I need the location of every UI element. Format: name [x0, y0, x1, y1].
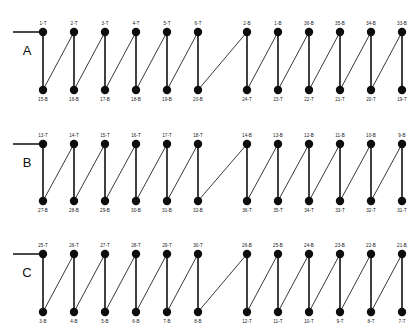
diagonal-edge: [340, 254, 371, 312]
node-bottom[interactable]: [39, 86, 47, 94]
node-top[interactable]: [367, 250, 375, 258]
node-bottom[interactable]: [398, 197, 406, 205]
node-bottom-label: 31-B: [162, 208, 172, 213]
node-bottom[interactable]: [367, 86, 375, 94]
node-bottom[interactable]: [132, 86, 140, 94]
node-bottom[interactable]: [336, 86, 344, 94]
node-top[interactable]: [305, 250, 313, 258]
node-bottom[interactable]: [39, 308, 47, 316]
node-bottom[interactable]: [163, 197, 171, 205]
diagonal-edge: [105, 254, 136, 312]
node-top-label: 25-T: [38, 243, 48, 248]
node-top-label: 34-B: [366, 21, 376, 26]
node-top-label: 36-B: [304, 21, 314, 26]
node-bottom[interactable]: [336, 197, 344, 205]
node-top[interactable]: [39, 250, 47, 258]
node-top[interactable]: [398, 28, 406, 36]
node-top[interactable]: [132, 250, 140, 258]
node-bottom[interactable]: [194, 308, 202, 316]
node-bottom-label: 3-B: [39, 319, 46, 324]
node-top-label: 2-T: [70, 21, 77, 26]
diagonal-edge: [136, 144, 167, 201]
node-bottom[interactable]: [101, 197, 109, 205]
node-top[interactable]: [243, 28, 251, 36]
node-bottom[interactable]: [243, 197, 251, 205]
diagonal-edge: [278, 144, 309, 201]
node-bottom[interactable]: [398, 86, 406, 94]
node-top[interactable]: [70, 140, 78, 148]
node-top[interactable]: [101, 28, 109, 36]
node-top[interactable]: [336, 28, 344, 36]
node-top-label: 3-T: [101, 21, 108, 26]
node-bottom[interactable]: [163, 308, 171, 316]
node-top[interactable]: [163, 250, 171, 258]
node-top-label: 14-B: [242, 133, 252, 138]
node-top[interactable]: [274, 28, 282, 36]
node-top[interactable]: [336, 140, 344, 148]
node-top[interactable]: [39, 140, 47, 148]
node-bottom[interactable]: [243, 308, 251, 316]
node-bottom[interactable]: [305, 86, 313, 94]
node-top[interactable]: [132, 140, 140, 148]
node-bottom[interactable]: [194, 197, 202, 205]
node-top[interactable]: [163, 28, 171, 36]
diagonal-edge: [43, 254, 74, 312]
node-bottom-label: 34-T: [304, 208, 314, 213]
node-top[interactable]: [70, 250, 78, 258]
diagonal-edge: [74, 254, 105, 312]
node-bottom[interactable]: [305, 197, 313, 205]
node-top[interactable]: [305, 140, 313, 148]
node-bottom[interactable]: [132, 197, 140, 205]
node-top[interactable]: [274, 250, 282, 258]
node-bottom[interactable]: [132, 308, 140, 316]
node-bottom[interactable]: [39, 197, 47, 205]
diagonal-edge: [340, 144, 371, 201]
node-bottom-label: 8-B: [194, 319, 201, 324]
node-top[interactable]: [398, 250, 406, 258]
node-top[interactable]: [39, 28, 47, 36]
node-top[interactable]: [274, 140, 282, 148]
diagonal-edge: [43, 144, 74, 201]
node-top-label: 18-T: [193, 133, 203, 138]
node-top[interactable]: [163, 140, 171, 148]
node-top[interactable]: [367, 140, 375, 148]
node-top[interactable]: [367, 28, 375, 36]
node-bottom[interactable]: [70, 86, 78, 94]
node-top-label: 21-B: [397, 243, 407, 248]
node-top-label: 1-T: [39, 21, 46, 26]
node-bottom[interactable]: [243, 86, 251, 94]
node-bottom[interactable]: [70, 308, 78, 316]
node-top[interactable]: [70, 28, 78, 36]
node-top[interactable]: [194, 28, 202, 36]
diagonal-edge: [309, 144, 340, 201]
node-bottom[interactable]: [70, 197, 78, 205]
node-top[interactable]: [243, 250, 251, 258]
node-top[interactable]: [194, 250, 202, 258]
row-letter-a: A: [23, 43, 32, 58]
node-bottom[interactable]: [398, 308, 406, 316]
diagonal-edge: [105, 144, 136, 201]
node-bottom[interactable]: [367, 308, 375, 316]
node-bottom[interactable]: [194, 86, 202, 94]
node-top[interactable]: [336, 250, 344, 258]
node-top-label: 17-T: [162, 133, 172, 138]
node-bottom[interactable]: [336, 308, 344, 316]
node-bottom[interactable]: [305, 308, 313, 316]
node-top-label: 30-T: [193, 243, 203, 248]
node-bottom[interactable]: [101, 308, 109, 316]
node-bottom-label: 7-B: [163, 319, 170, 324]
node-top[interactable]: [305, 28, 313, 36]
node-top[interactable]: [398, 140, 406, 148]
node-top[interactable]: [243, 140, 251, 148]
node-bottom[interactable]: [274, 86, 282, 94]
node-bottom[interactable]: [274, 197, 282, 205]
node-bottom[interactable]: [274, 308, 282, 316]
node-top[interactable]: [194, 140, 202, 148]
node-bottom-label: 4-B: [70, 319, 77, 324]
node-bottom[interactable]: [101, 86, 109, 94]
node-bottom[interactable]: [163, 86, 171, 94]
node-top[interactable]: [132, 28, 140, 36]
node-bottom[interactable]: [367, 197, 375, 205]
node-top[interactable]: [101, 250, 109, 258]
node-top[interactable]: [101, 140, 109, 148]
